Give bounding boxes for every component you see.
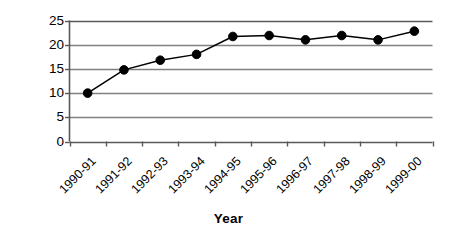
data-point-1990-91 (83, 89, 92, 98)
data-markers (83, 27, 418, 98)
data-point-1999-00 (410, 27, 419, 36)
growth-rate-line-chart: % Growth Rate 0510152025 1990-911991-921… (0, 0, 457, 236)
data-point-1996-97 (301, 36, 310, 45)
plot-area (0, 0, 457, 236)
data-point-1991-92 (120, 66, 129, 75)
data-point-1997-98 (337, 31, 346, 40)
data-point-1998-99 (374, 36, 383, 45)
series-polyline (88, 31, 415, 93)
data-point-1993-94 (192, 50, 201, 59)
data-point-1992-93 (156, 56, 165, 65)
data-point-1994-95 (229, 32, 238, 41)
data-point-1995-96 (265, 31, 274, 40)
x-axis-title: Year (0, 211, 457, 226)
data-line (88, 31, 415, 93)
